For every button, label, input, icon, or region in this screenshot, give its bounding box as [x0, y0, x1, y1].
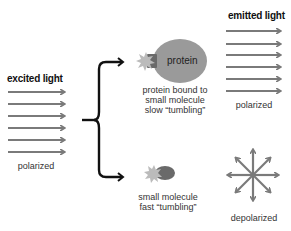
free-caption-line-2: fast “tumbling” [128, 202, 208, 212]
emitted-light-title: emitted light [228, 10, 285, 21]
bound-caption: protein bound to small molecule slow “tu… [130, 85, 220, 115]
excited-light-title: excited light [7, 73, 63, 84]
depolarized-arrows [228, 150, 278, 200]
small-molecule [144, 165, 175, 183]
free-caption-line-1: small molecule [128, 192, 208, 202]
emitted-polarized-caption: polarized [226, 100, 282, 110]
excited-light-arrows [8, 92, 64, 152]
bound-caption-line-2: small molecule [130, 95, 220, 105]
branch-bracket [82, 58, 123, 181]
bound-caption-line-1: protein bound to [130, 85, 220, 95]
excited-polarized-caption: polarized [8, 161, 64, 171]
free-caption: small molecule fast “tumbling” [128, 192, 208, 212]
emitted-light-arrows [226, 31, 280, 91]
protein-label: protein [167, 55, 198, 66]
bound-caption-line-3: slow “tumbling” [130, 105, 220, 115]
depolarized-caption: depolarized [222, 213, 286, 223]
